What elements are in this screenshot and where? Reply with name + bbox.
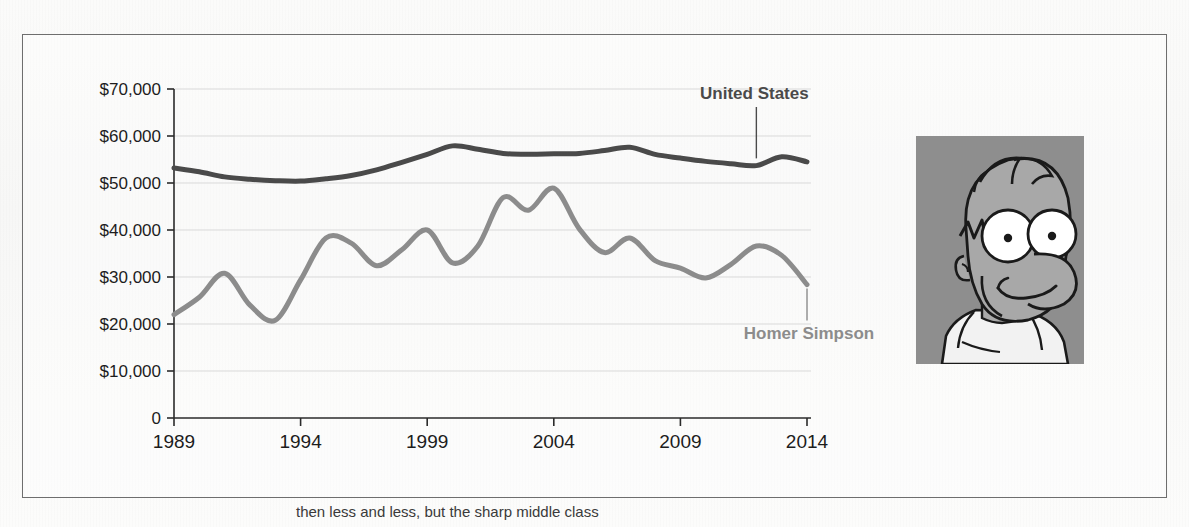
y-tick-label-10000: $10,000: [100, 362, 161, 381]
y-tick-label-40000: $40,000: [100, 221, 161, 240]
caption-strip: then less and less, but the sharp middle…: [0, 505, 1189, 527]
series-line-united-states: [174, 146, 807, 182]
series-annotations: United StatesHomer Simpson: [700, 84, 874, 343]
y-tick-label-0: 0: [152, 409, 161, 428]
x-tick-label-1999: 1999: [406, 431, 448, 452]
x-tick-label-1994: 1994: [279, 431, 322, 452]
right-pupil: [1048, 232, 1056, 240]
figure-caption: then less and less, but the sharp middle…: [296, 505, 599, 520]
chart-canvas: 0$10,000$20,000$30,000$40,000$50,000$60,…: [23, 35, 923, 499]
x-axis-tick-labels: 198919941999200420092014: [153, 431, 829, 452]
homer-simpson-photo: [916, 136, 1084, 364]
x-tick-label-2014: 2014: [786, 431, 829, 452]
y-axis-ticks: [167, 89, 174, 418]
annotation-label-united-states: United States: [700, 84, 809, 103]
x-tick-label-2004: 2004: [533, 431, 576, 452]
y-axis-tick-labels: 0$10,000$20,000$30,000$40,000$50,000$60,…: [100, 80, 161, 428]
gridlines: [174, 89, 811, 371]
x-tick-label-1989: 1989: [153, 431, 195, 452]
y-tick-label-60000: $60,000: [100, 127, 161, 146]
left-pupil: [1004, 234, 1012, 242]
axes: [174, 89, 811, 418]
series-line-homer-simpson: [174, 188, 807, 321]
y-tick-label-50000: $50,000: [100, 174, 161, 193]
y-tick-label-30000: $30,000: [100, 268, 161, 287]
annotation-label-homer-simpson: Homer Simpson: [744, 324, 874, 343]
nose-muzzle-shape: [1028, 254, 1076, 309]
line-chart: 0$10,000$20,000$30,000$40,000$50,000$60,…: [23, 35, 923, 499]
homer-simpson-illustration: [916, 136, 1084, 364]
x-axis-ticks: [174, 418, 807, 426]
x-tick-label-2009: 2009: [659, 431, 701, 452]
y-tick-label-70000: $70,000: [100, 80, 161, 99]
figure-frame: 0$10,000$20,000$30,000$40,000$50,000$60,…: [22, 34, 1167, 498]
series-lines: [174, 146, 807, 321]
y-tick-label-20000: $20,000: [100, 315, 161, 334]
